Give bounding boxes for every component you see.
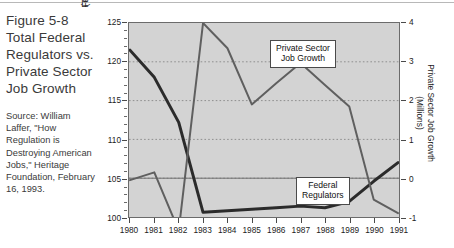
x-tick-label: 1990 <box>365 225 383 235</box>
left-y-minor-tick <box>124 210 127 211</box>
callout-private-line1: Private Sector <box>276 43 330 53</box>
right-y-tick-mark <box>401 100 406 101</box>
x-tick-label: 1982 <box>169 225 187 235</box>
left-y-axis: 100105110115120125 <box>84 14 128 226</box>
left-y-minor-tick <box>124 69 127 70</box>
right-y-tick-label: 4 <box>409 17 429 27</box>
left-y-minor-tick <box>124 38 127 39</box>
x-tick-mark <box>129 218 130 223</box>
x-tick-label: 1985 <box>242 225 260 235</box>
left-y-minor-tick <box>124 46 127 47</box>
x-tick-label: 1981 <box>144 225 162 235</box>
left-y-minor-tick <box>124 85 127 86</box>
left-y-tick-label: 120 <box>93 56 121 66</box>
right-y-tick-label: 0 <box>409 174 429 184</box>
left-y-tick-label: 105 <box>93 174 121 184</box>
left-y-minor-tick <box>124 163 127 164</box>
left-y-minor-tick <box>124 171 127 172</box>
x-tick-mark <box>350 218 351 223</box>
left-y-tick-mark <box>122 140 127 141</box>
x-tick-mark <box>276 218 277 223</box>
right-y-tick-mark <box>401 22 406 23</box>
left-y-minor-tick <box>124 124 127 125</box>
x-tick-mark <box>252 218 253 223</box>
x-tick-mark <box>399 218 400 223</box>
figure-root: Figure 5-8 Total Federal Regulators vs. … <box>0 0 454 248</box>
right-y-tick-mark <box>401 179 406 180</box>
top-divider-rule <box>0 2 454 3</box>
left-y-minor-tick <box>124 155 127 156</box>
x-axis: 1980198119821983198419851986198719881989… <box>128 218 400 246</box>
callout-private-line2: Job Growth <box>276 53 330 63</box>
x-tick-label: 1987 <box>292 225 310 235</box>
left-y-tick-mark <box>122 61 127 62</box>
x-tick-mark <box>154 218 155 223</box>
x-tick-mark <box>227 218 228 223</box>
x-tick-mark <box>374 218 375 223</box>
left-y-tick-label: 125 <box>93 17 121 27</box>
x-tick-label: 1991 <box>390 225 408 235</box>
left-y-minor-tick <box>124 202 127 203</box>
left-y-minor-tick <box>124 77 127 78</box>
right-y-tick-label: 1 <box>409 135 429 145</box>
callout-federal-regulators: Federal Regulators <box>296 177 350 205</box>
left-y-minor-tick <box>124 30 127 31</box>
left-y-tick-label: 100 <box>93 213 121 223</box>
left-y-minor-tick <box>124 194 127 195</box>
callout-federal-line2: Regulators <box>302 190 344 200</box>
x-tick-label: 1983 <box>193 225 211 235</box>
left-y-tick-mark <box>122 100 127 101</box>
right-y-tick-label: 2 <box>409 95 429 105</box>
x-tick-mark <box>301 218 302 223</box>
right-y-tick-label: -1 <box>409 213 429 223</box>
left-y-tick-label: 115 <box>93 95 121 105</box>
x-tick-mark <box>325 218 326 223</box>
callout-private-sector: Private Sector Job Growth <box>270 40 336 68</box>
x-tick-label: 1984 <box>218 225 236 235</box>
left-y-minor-tick <box>124 187 127 188</box>
left-y-minor-tick <box>124 53 127 54</box>
x-tick-label: 1988 <box>316 225 334 235</box>
x-tick-label: 1989 <box>341 225 359 235</box>
left-y-minor-tick <box>124 132 127 133</box>
right-y-tick-mark <box>401 218 406 219</box>
left-y-minor-tick <box>124 116 127 117</box>
x-tick-mark <box>203 218 204 223</box>
callout-federal-line1: Federal <box>302 180 344 190</box>
plot-area <box>128 22 400 218</box>
x-tick-mark <box>178 218 179 223</box>
right-y-tick-label: 3 <box>409 56 429 66</box>
left-y-tick-label: 110 <box>93 135 121 145</box>
left-y-minor-tick <box>124 147 127 148</box>
left-y-minor-tick <box>124 108 127 109</box>
right-y-tick-mark <box>401 61 406 62</box>
left-y-tick-mark <box>122 179 127 180</box>
chart-container: Federal Regulators (Thousands) Private S… <box>84 14 450 246</box>
left-y-tick-mark <box>122 218 127 219</box>
left-y-minor-tick <box>124 93 127 94</box>
right-y-axis: -101234 <box>400 14 450 226</box>
x-tick-label: 1986 <box>267 225 285 235</box>
right-y-tick-mark <box>401 140 406 141</box>
left-y-tick-mark <box>122 22 127 23</box>
x-tick-label: 1980 <box>120 225 138 235</box>
plot-lines <box>129 23 399 217</box>
